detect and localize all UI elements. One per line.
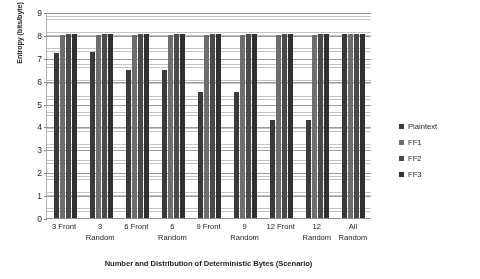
x-axis-tick-label-line: Random xyxy=(155,233,189,244)
bar xyxy=(306,120,311,218)
bar xyxy=(234,92,239,218)
bar xyxy=(96,35,101,218)
x-axis-tick-label-line: Random xyxy=(83,233,117,244)
entropy-bar-chart: Entropy (bits/byte) 9876543210 3 Front3R… xyxy=(0,0,480,279)
bar xyxy=(102,34,107,218)
bar xyxy=(276,35,281,218)
bar xyxy=(252,34,257,218)
legend-swatch-icon xyxy=(399,156,404,161)
y-axis-tick-label: 4 xyxy=(26,123,42,132)
bar xyxy=(60,35,65,218)
legend-swatch-icon xyxy=(399,172,404,177)
y-axis-tick-label: 6 xyxy=(26,77,42,86)
bar xyxy=(360,34,365,218)
y-axis-tick-label: 0 xyxy=(26,215,42,224)
bar xyxy=(198,92,203,218)
y-axis-tick-label: 8 xyxy=(26,31,42,40)
x-axis-tick-label: 12 Front xyxy=(264,222,298,252)
bar xyxy=(216,34,221,218)
x-axis-tick-label: 9Random xyxy=(228,222,262,252)
bar-group xyxy=(90,13,113,218)
x-axis-tick-label-line: All xyxy=(336,222,370,233)
bar-group xyxy=(54,13,77,218)
legend-swatch-icon xyxy=(399,124,404,129)
bar xyxy=(210,34,215,218)
bar xyxy=(168,35,173,218)
bar xyxy=(72,34,77,218)
legend-item[interactable]: FF3 xyxy=(399,166,475,182)
bar xyxy=(282,34,287,218)
y-axis-tick-label: 7 xyxy=(26,54,42,63)
legend-item[interactable]: FF2 xyxy=(399,150,475,166)
legend-swatch-icon xyxy=(399,140,404,145)
legend-label: FF2 xyxy=(408,154,422,163)
bar xyxy=(54,53,59,218)
x-axis-tick-label-line: 3 Front xyxy=(47,222,81,233)
x-axis-tick-label: AllRandom xyxy=(336,222,370,252)
bar xyxy=(90,52,95,218)
x-axis-tick-label: 9 Front xyxy=(191,222,225,252)
x-axis-tick-label: 3Random xyxy=(83,222,117,252)
bar xyxy=(240,35,245,218)
x-axis-tick-label-line: Random xyxy=(336,233,370,244)
bar xyxy=(144,34,149,218)
legend-label: FF3 xyxy=(408,170,422,179)
x-axis-tick-label-line: 9 Front xyxy=(191,222,225,233)
chart-legend: PlaintextFF1FF2FF3 xyxy=(399,118,475,182)
x-axis-title: Number and Distribution of Deterministic… xyxy=(46,259,371,268)
bar xyxy=(66,34,71,218)
x-axis-tick-label-line: 3 xyxy=(83,222,117,233)
bar-group xyxy=(126,13,149,218)
bar xyxy=(162,70,167,218)
bar xyxy=(204,35,209,218)
x-axis-tick-labels: 3 Front3Random6 Front6Random9 Front9Rand… xyxy=(46,222,371,252)
bar-group xyxy=(162,13,185,218)
y-axis-tick-label: 2 xyxy=(26,169,42,178)
y-axis-tick-label: 1 xyxy=(26,192,42,201)
bar-group xyxy=(234,13,257,218)
bar xyxy=(126,70,131,218)
y-axis-tick-label: 5 xyxy=(26,100,42,109)
bar-group xyxy=(198,13,221,218)
y-axis-title: Entropy (bits/byte) xyxy=(13,0,27,88)
y-axis-tick-label: 3 xyxy=(26,146,42,155)
bar-series-container xyxy=(47,13,371,218)
bar xyxy=(312,35,317,218)
x-axis-tick-label: 6 Front xyxy=(119,222,153,252)
bar xyxy=(342,34,347,218)
legend-item[interactable]: Plaintext xyxy=(399,118,475,134)
legend-label: FF1 xyxy=(408,138,422,147)
y-axis-tick-labels: 9876543210 xyxy=(26,13,44,219)
bar xyxy=(318,34,323,218)
x-axis-tick-label-line: 12 xyxy=(300,222,334,233)
bar-group xyxy=(342,13,365,218)
x-axis-tick-label: 6Random xyxy=(155,222,189,252)
bar xyxy=(246,34,251,218)
x-axis-tick-label-line: 9 xyxy=(228,222,262,233)
x-axis-tick-label-line: 6 Front xyxy=(119,222,153,233)
bar xyxy=(174,34,179,218)
bar xyxy=(324,34,329,218)
bar xyxy=(180,34,185,218)
bar xyxy=(108,34,113,218)
bar xyxy=(348,34,353,218)
bar xyxy=(288,34,293,218)
x-axis-tick-label-line: Random xyxy=(300,233,334,244)
x-axis-tick-label: 3 Front xyxy=(47,222,81,252)
plot-area xyxy=(46,13,371,219)
legend-label: Plaintext xyxy=(408,122,437,131)
bar xyxy=(132,35,137,218)
legend-item[interactable]: FF1 xyxy=(399,134,475,150)
x-axis-tick-label: 12Random xyxy=(300,222,334,252)
bar-group xyxy=(270,13,293,218)
y-axis-tick-label: 9 xyxy=(26,9,42,18)
x-axis-tick-label-line: 6 xyxy=(155,222,189,233)
y-axis-tick-mark xyxy=(44,219,47,220)
x-axis-tick-label-line: 12 Front xyxy=(264,222,298,233)
bar xyxy=(270,120,275,218)
x-axis-tick-label-line: Random xyxy=(228,233,262,244)
bar xyxy=(354,34,359,218)
bar-group xyxy=(306,13,329,218)
bar xyxy=(138,34,143,218)
